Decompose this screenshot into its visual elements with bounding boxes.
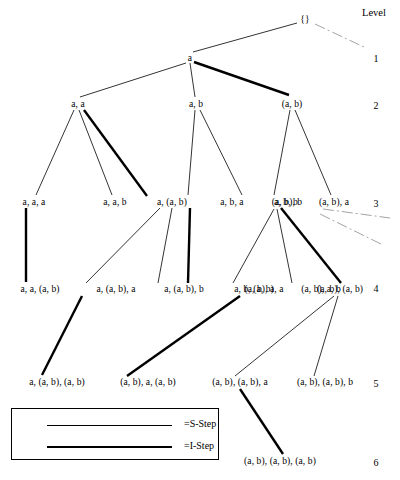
edge-ABa-to-ABab-s-step [277,209,292,283]
legend-line-s-step [47,425,172,426]
legend: =S-Step =I-Step [11,408,219,460]
edge-aa-to-aab-s-step [79,110,112,195]
edge-a-to-AB-i-step [194,62,289,95]
tree-node-root: {} [300,14,309,25]
edge-aAB-to-aABb-s-step [158,208,172,283]
tree-node-ABaAB: (a, b), a, (a, b) [120,377,176,388]
edge-aba-to-abAB-i-step [188,208,190,283]
level-label-3: 3 [374,198,379,209]
edge-aa-to-aaa-s-step [36,110,74,195]
tree-node-a: a [188,53,192,64]
tree-node-aaAB: a, a, (a, b) [20,284,59,295]
edge-ABaa-to-ABaAB-i-step [127,296,240,376]
truncated-branch-marks [315,24,390,245]
tree-node-ABaa: (a, b), a, a [244,284,283,295]
edge-AB-to-ABb-s-step [295,110,331,195]
tree-node-aaa: a, a, a [23,197,46,208]
tree-node-ABa: (a, b), a [319,197,349,208]
edge-aABa-to-aABAB-i-step [42,296,82,375]
tree-node-aABAB: a, (a, b), (a, b) [29,377,85,388]
sequence-tree-diagram: {}aa, aa, b(a, b)a, a, aa, a, ba, (a, b)… [0,0,400,480]
edge-aAB-to-aABa-s-step [86,208,160,283]
legend-label-s-step: =S-Step [184,418,216,429]
edge-AB-to-ABa-s-step [274,110,290,195]
legend-row-i-step: =I-Step [12,439,218,455]
tree-node-aABb: a, (a, b), b [164,284,204,295]
edge-aa-to-aAB-i-step [84,110,147,196]
edge-ABABa-to-ABABAB-i-step [240,389,283,454]
tree-node-ab: a, b [189,99,203,110]
tree-node-aAB: a, (a, b) [157,197,187,208]
tree-node-ABAB: (a, b), (a, b) [317,284,363,295]
tree-node-ABABb: (a, b), (a, b), b [297,377,353,388]
tree-node-aa: a, a [71,99,85,110]
tree-node-ABABAB: (a, b), (a, b), (a, b) [244,456,316,467]
level-label-4: 4 [374,283,379,294]
level-label-1: 1 [374,53,379,64]
edge-a-to-aa-s-step [80,63,186,97]
truncated-branch-root-trunc [315,24,364,47]
edge-ab-to-aba-s-step [188,110,195,195]
tree-edges [26,23,341,454]
truncated-branch-abb-trunc-1 [323,209,390,218]
tree-node-aba: a, b, a [220,197,243,208]
edge-root-to-a-s-step [193,23,297,52]
tree-node-AB: (a, b) [282,99,303,110]
tree-node-ABABa: (a, b), (a, b), a [212,377,268,388]
truncated-branch-abb-trunc-2 [320,214,383,245]
edge-a-to-ab-s-step [190,63,195,97]
level-column-title: Level [362,7,386,18]
level-label-6: 6 [374,457,379,468]
tree-node-ABb: (a, b), b [272,197,302,208]
legend-label-i-step: =I-Step [184,440,214,451]
legend-row-s-step: =S-Step [12,417,218,433]
edge-ab-to-abb-s-step [200,110,242,195]
edge-ABa-to-ABAB-i-step [281,208,341,283]
level-label-2: 2 [374,100,379,111]
edge-ABa-to-ABaa-s-step [233,209,274,283]
legend-line-i-step [47,446,172,448]
edge-ABAB-to-ABABa-s-step [235,296,334,376]
tree-node-aABa: a, (a, b), a [96,284,135,295]
edge-ABAB-to-ABABb-s-step [314,296,338,376]
level-label-5: 5 [374,378,379,389]
tree-node-aab: a, a, b [103,197,126,208]
